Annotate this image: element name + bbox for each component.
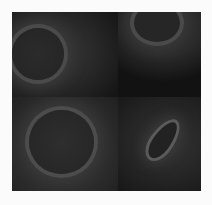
round-cell <box>29 110 94 174</box>
panel-top-right <box>118 12 201 97</box>
panel-top-left <box>12 12 118 97</box>
panel-bottom-left <box>12 97 118 191</box>
oval-cell <box>134 12 180 42</box>
sickle-cell <box>144 118 183 163</box>
panel-bottom-right <box>118 97 201 191</box>
microscopy-figure <box>12 12 201 191</box>
round-cell <box>12 28 64 80</box>
